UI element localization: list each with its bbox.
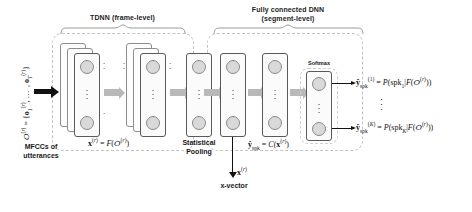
tdnn-stack-1-repeat-dots: · · — [100, 62, 108, 71]
arrow-tdnn1-to-tdnn2 — [104, 89, 120, 96]
input-caption-line2: utterances — [12, 152, 70, 161]
figure-canvas: TDNN (frame-level) Fully connected DNN (… — [0, 0, 472, 212]
softmax-layer: ··· — [306, 71, 332, 141]
dnn-layer-2-node-top — [268, 60, 282, 74]
arrow-tdnn2-to-pooling — [170, 89, 186, 96]
dnn-layer-2-node-bottom — [268, 116, 282, 130]
tdnn-layer-1-node-ellipsis: ··· — [75, 88, 99, 100]
dnn-group-label-line2: (segment-level) — [213, 15, 363, 24]
output-arrow-K — [332, 128, 352, 129]
arrow-dnn1-to-dnn2 — [248, 89, 262, 96]
dnn-layer-1: ··· — [220, 53, 246, 137]
tdnn-stack-2-repeat-dots: · · — [120, 62, 128, 71]
dnn-group-label: Fully connected DNN (segment-level) — [213, 6, 363, 23]
tdnn-layer-2-node-bottom — [146, 116, 160, 130]
xvector-symbol: x(r) — [237, 168, 247, 177]
tdnn-layer-1-node-bottom — [80, 116, 94, 130]
output-equation-1: ŷspk(1) = P(spk1|F(O(r))) — [356, 78, 431, 87]
output-equation-K: ŷspk(K) = P(spkK|F(O(r))) — [356, 123, 433, 132]
tdnn-layer-1-node-top — [80, 60, 94, 74]
input-arrow — [34, 89, 52, 94]
pooling-label-line2: Pooling — [170, 148, 228, 157]
pooling-node-bottom — [192, 116, 206, 130]
tdnn-group-label-text: TDNN (frame-level) — [60, 14, 185, 23]
xvector-label: x-vector — [203, 182, 265, 189]
dnn-layer-2-node-ellipsis: ··· — [263, 88, 287, 100]
dnn-layer-1-node-top — [226, 60, 240, 74]
arrow-pooling-to-dnn1 — [204, 89, 220, 96]
segment-level-output-math: ŷspk = C(x(r)) — [248, 140, 289, 149]
pooling-label-line1: Statistical — [170, 139, 228, 148]
xvector-tap-line — [232, 137, 233, 173]
pooling-node-top — [192, 60, 206, 74]
input-sequence-math: O(r) = {o1(r), … , oT(r)} — [22, 66, 31, 140]
softmax-node-K — [312, 122, 326, 136]
tdnn-layer-2-card-front: ··· — [140, 53, 166, 137]
dnn-layer-1-node-ellipsis: ··· — [221, 88, 245, 100]
statistical-pooling-label: Statistical Pooling — [170, 139, 228, 156]
dnn-layer-1-node-bottom — [226, 116, 240, 130]
dnn-layer-2: ··· — [262, 53, 288, 137]
tdnn-group-label: TDNN (frame-level) — [60, 14, 185, 23]
softmax-label: Softmax — [297, 60, 341, 66]
tdnn-layer-2-node-ellipsis: ··· — [141, 88, 165, 100]
tdnn-stack-1-repeat-dots-lower: · — [100, 112, 108, 117]
output-equations-ellipsis: · · · — [380, 97, 383, 112]
input-caption-line1: MFCCs of — [12, 143, 70, 152]
tdnn-layer-2-node-top — [146, 60, 160, 74]
softmax-node-ellipsis: ··· — [307, 102, 331, 114]
input-caption: MFCCs of utterances — [12, 143, 70, 160]
tdnn-layer-1-card-front: ··· — [74, 53, 100, 137]
dnn-group-label-line1: Fully connected DNN — [213, 6, 363, 15]
softmax-node-1 — [312, 77, 326, 91]
frame-level-embedding-math: x(r) = F(O(r)) — [88, 139, 129, 148]
tdnn-stack-2-repeat-dots-lower: · · — [166, 62, 174, 71]
output-arrow-1 — [332, 83, 352, 84]
